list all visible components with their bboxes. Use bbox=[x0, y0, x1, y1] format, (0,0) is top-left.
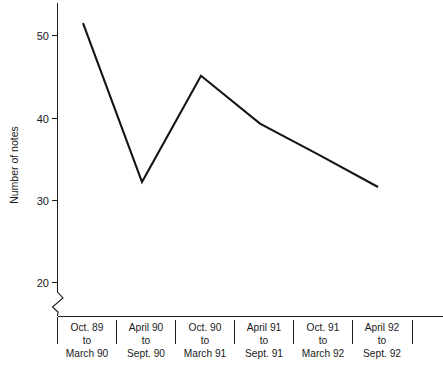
cat-5-line-1: to bbox=[378, 335, 387, 346]
y-tick-label-50: 50 bbox=[37, 30, 49, 42]
cat-2-line-2: March 91 bbox=[184, 348, 227, 359]
cat-1-line-2: Sept. 90 bbox=[127, 348, 165, 359]
cat-0-line-2: March 90 bbox=[66, 348, 109, 359]
x-category-label-0: Oct. 89 to March 90 bbox=[66, 322, 109, 359]
y-tick-label-20: 20 bbox=[37, 277, 49, 289]
cat-3-line-1: to bbox=[260, 335, 269, 346]
cat-4-line-2: March 92 bbox=[302, 348, 345, 359]
cat-2-line-1: to bbox=[201, 335, 210, 346]
x-category-label-1: April 90 to Sept. 90 bbox=[127, 322, 165, 359]
x-category-label-3: April 91 to Sept. 91 bbox=[245, 322, 283, 359]
cat-2-line-0: Oct. 90 bbox=[189, 322, 222, 333]
x-category-label-2: Oct. 90 to March 91 bbox=[184, 322, 227, 359]
cat-1-line-1: to bbox=[142, 335, 151, 346]
cat-5-line-2: Sept. 92 bbox=[363, 348, 401, 359]
cat-0-line-1: to bbox=[83, 335, 92, 346]
cat-3-line-0: April 91 bbox=[247, 322, 282, 333]
cat-1-line-0: April 90 bbox=[129, 322, 164, 333]
y-tick-label-40: 40 bbox=[37, 113, 49, 125]
x-category-label-4: Oct. 91 to March 92 bbox=[302, 322, 345, 359]
cat-4-line-1: to bbox=[319, 335, 328, 346]
line-chart: 50 40 30 20 Number of notes Oct. 89 to M… bbox=[0, 0, 443, 370]
y-axis-title: Number of notes bbox=[8, 126, 20, 204]
y-axis-break-icon bbox=[53, 288, 64, 316]
data-series-line bbox=[83, 23, 378, 187]
cat-5-line-0: April 92 bbox=[365, 322, 400, 333]
cat-3-line-2: Sept. 91 bbox=[245, 348, 283, 359]
chart-canvas: 50 40 30 20 Number of notes Oct. 89 to M… bbox=[0, 0, 443, 370]
cat-4-line-0: Oct. 91 bbox=[307, 322, 340, 333]
x-category-label-5: April 92 to Sept. 92 bbox=[363, 322, 401, 359]
y-tick-label-30: 30 bbox=[37, 195, 49, 207]
cat-0-line-0: Oct. 89 bbox=[71, 322, 104, 333]
